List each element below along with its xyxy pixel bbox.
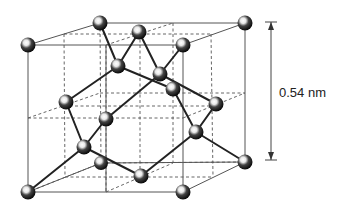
atom-face-front xyxy=(99,112,114,127)
diamond-cubic-unit-cell: 0.54 nm xyxy=(0,0,354,217)
bond xyxy=(28,147,84,192)
bond xyxy=(84,147,141,176)
bond xyxy=(106,74,160,119)
arrowhead-up-icon xyxy=(268,22,274,30)
atom-face-back xyxy=(166,82,181,97)
bond xyxy=(196,132,245,162)
atom-back-top-right xyxy=(238,16,253,31)
bond xyxy=(141,132,196,176)
atom-face-left xyxy=(59,95,74,110)
atom-face-bottom xyxy=(134,169,149,184)
atoms xyxy=(21,16,253,200)
atom-front-bottom-right xyxy=(176,185,191,200)
atom-front-top-left xyxy=(21,38,36,53)
cube-edge xyxy=(101,162,245,163)
atom-front-top-right xyxy=(176,38,191,53)
atom-tetrahedral xyxy=(189,125,204,140)
atom-tetrahedral xyxy=(77,140,92,155)
atom-front-bottom-left xyxy=(21,185,36,200)
atom-tetrahedral xyxy=(153,67,168,82)
bond xyxy=(66,66,118,102)
atom-back-bottom-right xyxy=(238,155,253,170)
atom-face-right xyxy=(209,97,224,112)
atom-back-top-left xyxy=(93,16,108,31)
dimension-indicator: 0.54 nm xyxy=(265,22,326,160)
dimension-label: 0.54 nm xyxy=(279,85,326,100)
arrowhead-down-icon xyxy=(268,152,274,160)
atom-back-bottom-left xyxy=(94,156,108,170)
atom-tetrahedral xyxy=(111,59,126,74)
atom-face-top xyxy=(132,25,147,40)
